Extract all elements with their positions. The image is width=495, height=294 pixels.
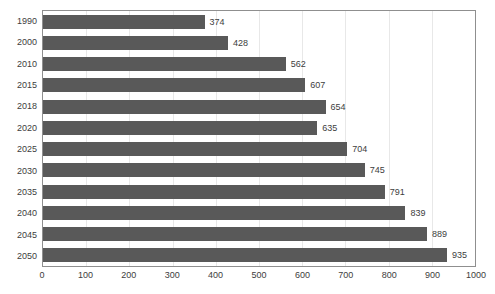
x-tick-label: 800 <box>382 270 397 280</box>
bar-row: 839 <box>43 206 475 220</box>
x-tick-label: 1000 <box>466 270 486 280</box>
bar-value-label: 654 <box>331 102 346 112</box>
y-tick-label: 2045 <box>0 228 37 242</box>
y-tick-label: 2010 <box>0 57 37 71</box>
bar <box>43 163 365 177</box>
bar <box>43 121 317 135</box>
y-axis-labels: 1990200020102015201820202025203020352040… <box>0 10 37 267</box>
x-tick-label: 500 <box>251 270 266 280</box>
y-tick-label: 2025 <box>0 142 37 156</box>
bar <box>43 57 286 71</box>
bar-row: 889 <box>43 227 475 241</box>
bar-value-label: 704 <box>352 144 367 154</box>
bar <box>43 142 347 156</box>
bar-row: 935 <box>43 248 475 262</box>
x-tick-label: 300 <box>165 270 180 280</box>
bar <box>43 78 305 92</box>
y-tick-label: 2000 <box>0 35 37 49</box>
y-tick-label: 1990 <box>0 14 37 28</box>
x-axis-labels: 01002003004005006007008009001000 <box>42 270 476 284</box>
x-tick-label: 600 <box>295 270 310 280</box>
bar-row: 791 <box>43 185 475 199</box>
y-tick-label: 2030 <box>0 164 37 178</box>
bar <box>43 227 427 241</box>
bar-value-label: 428 <box>233 38 248 48</box>
bar <box>43 100 326 114</box>
bar-value-label: 889 <box>432 229 447 239</box>
x-tick-label: 900 <box>425 270 440 280</box>
y-tick-label: 2050 <box>0 249 37 263</box>
bar-series: 374428562607654635704745791839889935 <box>43 11 475 266</box>
bar-row: 654 <box>43 100 475 114</box>
bar-value-label: 607 <box>310 80 325 90</box>
x-tick-label: 100 <box>78 270 93 280</box>
x-tick-label: 0 <box>39 270 44 280</box>
plot-area: 374428562607654635704745791839889935 <box>42 10 476 267</box>
y-tick-label: 2015 <box>0 78 37 92</box>
bar-value-label: 839 <box>410 208 425 218</box>
bar-value-label: 745 <box>370 165 385 175</box>
x-tick-label: 200 <box>121 270 136 280</box>
x-tick-label: 700 <box>338 270 353 280</box>
bar-row: 745 <box>43 163 475 177</box>
bar-chart: 1990200020102015201820202025203020352040… <box>0 0 495 294</box>
y-tick-label: 2040 <box>0 206 37 220</box>
bar-value-label: 935 <box>452 250 467 260</box>
bar-value-label: 374 <box>210 17 225 27</box>
bar-value-label: 791 <box>390 187 405 197</box>
bar-row: 374 <box>43 15 475 29</box>
bar <box>43 36 228 50</box>
bar-row: 635 <box>43 121 475 135</box>
bar-value-label: 562 <box>291 59 306 69</box>
bar-row: 607 <box>43 78 475 92</box>
bar <box>43 206 405 220</box>
bar <box>43 248 447 262</box>
bar <box>43 185 385 199</box>
bar <box>43 15 205 29</box>
y-tick-label: 2035 <box>0 185 37 199</box>
y-tick-label: 2020 <box>0 121 37 135</box>
bar-row: 704 <box>43 142 475 156</box>
y-tick-label: 2018 <box>0 99 37 113</box>
bar-value-label: 635 <box>322 123 337 133</box>
bar-row: 428 <box>43 36 475 50</box>
bar-row: 562 <box>43 57 475 71</box>
x-tick-label: 400 <box>208 270 223 280</box>
